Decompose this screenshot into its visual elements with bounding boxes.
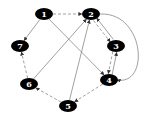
- edge-5-to-2: [69, 20, 89, 100]
- node-label: 2: [88, 9, 94, 19]
- node-label: 1: [41, 9, 47, 19]
- edge-6-to-7: [21, 52, 27, 78]
- edge-3-to-4: [108, 52, 113, 74]
- node-label: 6: [26, 79, 32, 89]
- nodes-group: 1234567: [11, 8, 125, 112]
- edge-5-to-6: [36, 88, 61, 102]
- node-4[interactable]: 4: [100, 74, 118, 86]
- edge-4-to-3: [112, 52, 117, 74]
- edge-3-to-2: [97, 18, 114, 39]
- edge-4-to-5: [75, 84, 103, 102]
- edge-1-to-4: [49, 19, 104, 75]
- node-7[interactable]: 7: [11, 40, 29, 52]
- graph-canvas: 1234567: [0, 0, 150, 118]
- node-3[interactable]: 3: [107, 40, 125, 52]
- node-label: 4: [106, 75, 112, 85]
- edges-group: [21, 14, 138, 102]
- node-label: 3: [113, 41, 119, 51]
- node-label: 7: [17, 41, 23, 51]
- edge-1-to-7: [24, 19, 40, 40]
- node-5[interactable]: 5: [59, 100, 77, 112]
- node-label: 5: [65, 101, 71, 111]
- node-6[interactable]: 6: [20, 78, 38, 90]
- node-2[interactable]: 2: [82, 8, 100, 20]
- edge-2-to-3: [94, 21, 111, 42]
- node-1[interactable]: 1: [35, 8, 53, 20]
